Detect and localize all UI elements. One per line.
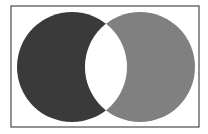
venn-diagram bbox=[0, 0, 208, 134]
